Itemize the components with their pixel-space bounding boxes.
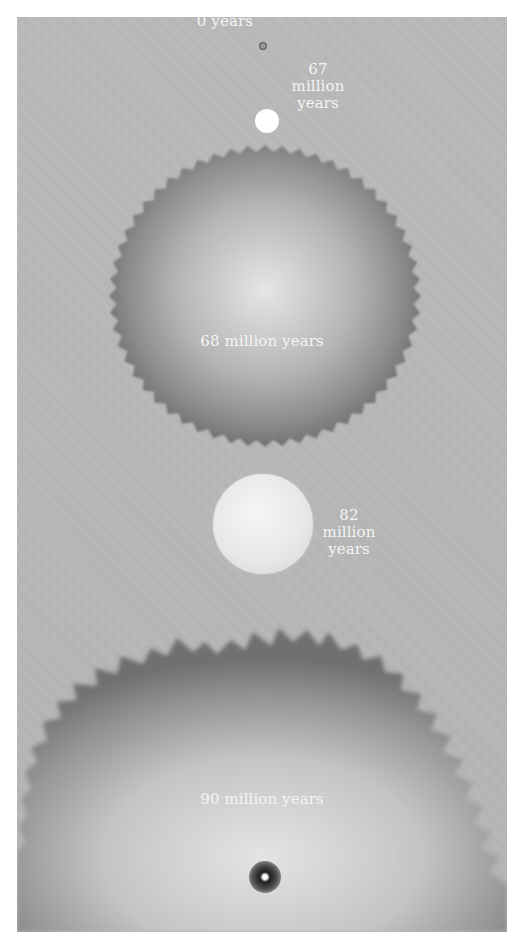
figure-panel: 0 years 67 million years 68 million year… (17, 17, 507, 932)
stage-82-label-line3: years (313, 541, 385, 558)
stage-82-label-line1: 82 (313, 507, 385, 524)
stage-82-label: 82 million years (313, 507, 385, 558)
stage-68-bubble (105, 141, 425, 451)
stage-0-dot (259, 42, 267, 50)
stage-82-sphere (213, 474, 313, 574)
stage-67-label-line2: million (283, 78, 353, 95)
stage-67-label: 67 million years (283, 61, 353, 112)
stage-67-label-line1: 67 (283, 61, 353, 78)
stage-82-label-line2: million (313, 524, 385, 541)
stage-68-label: 68 million years (157, 333, 367, 350)
stage-67-label-line3: years (283, 95, 353, 112)
stage-90-central-star (249, 861, 281, 893)
stage-0-label: 0 years (143, 17, 253, 30)
stage-67-sphere (255, 109, 279, 133)
stage-90-label: 90 million years (162, 791, 362, 808)
